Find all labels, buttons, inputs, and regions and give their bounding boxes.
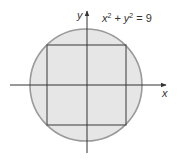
x-axis-label: x xyxy=(161,87,168,99)
circle-equation-label: x2+y2=9 xyxy=(101,12,152,24)
diagram-canvas: y x x2+y2=9 xyxy=(0,0,178,161)
circle-square-diagram: y x x2+y2=9 xyxy=(0,0,178,161)
y-axis-label: y xyxy=(76,9,84,21)
